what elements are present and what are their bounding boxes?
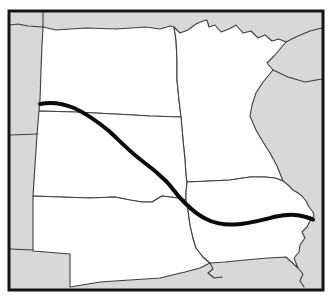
map-figure (0, 0, 336, 308)
page (0, 0, 336, 308)
region-south-dakota (33, 111, 187, 202)
map-svg (0, 0, 336, 308)
